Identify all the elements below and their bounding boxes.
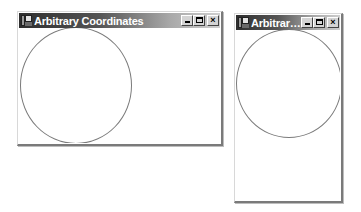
minimize-button[interactable]	[301, 17, 313, 28]
app-window-icon[interactable]	[21, 15, 32, 26]
maximize-button[interactable]	[313, 17, 325, 28]
minimize-button[interactable]	[181, 15, 193, 26]
app-window-icon[interactable]	[238, 17, 249, 28]
minimize-icon	[305, 23, 310, 25]
drawn-circle	[20, 28, 132, 143]
window-arbitrary-coordinates-wide: Arbitrary Coordinates ×	[17, 11, 223, 146]
client-area	[236, 30, 340, 200]
window-arbitrary-coordinates-tall: Arbitrary... ×	[234, 13, 343, 203]
drawn-circle	[236, 30, 340, 138]
maximize-icon	[316, 19, 323, 25]
minimize-icon	[185, 21, 190, 23]
maximize-icon	[196, 17, 203, 23]
close-icon: ×	[210, 15, 215, 25]
client-area	[19, 28, 220, 143]
title-bar[interactable]: Arbitrary Coordinates ×	[19, 13, 220, 28]
maximize-button[interactable]	[193, 15, 205, 26]
close-icon: ×	[330, 17, 335, 27]
close-button[interactable]: ×	[207, 15, 219, 26]
title-bar[interactable]: Arbitrary... ×	[236, 15, 340, 30]
close-button[interactable]: ×	[327, 17, 339, 28]
window-title: Arbitrary Coordinates	[34, 15, 181, 27]
window-title: Arbitrary...	[251, 17, 301, 29]
